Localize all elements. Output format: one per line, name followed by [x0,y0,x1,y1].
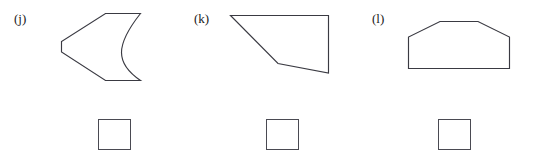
answer-box-l[interactable] [438,119,471,150]
shape-outline-l [409,22,510,69]
shapes-worksheet: (j) (k) (l) [0,0,543,167]
